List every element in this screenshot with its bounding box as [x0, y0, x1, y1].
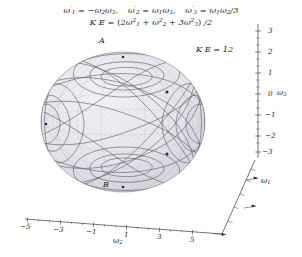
omega3-tick-0: 0 [268, 89, 273, 98]
omega2-tick-5: 5 [190, 235, 195, 244]
omega1-axis-label: ω1 [261, 176, 270, 185]
omega3-tick--1: −1 [265, 110, 276, 119]
equilibrium-label-a: A [99, 36, 105, 45]
omega3-tick--2: −2 [265, 131, 276, 140]
omega2-axis-label: ω2 [113, 236, 122, 245]
axis-omega3 [255, 24, 261, 158]
omega2-tick--5: −5 [20, 222, 31, 231]
omega3-tick--3: −3 [262, 147, 273, 156]
omega2-tick-1: 1 [124, 230, 129, 239]
omega2-tick--1: −1 [86, 227, 97, 236]
axis-omega1 [222, 160, 258, 234]
ellipsoid-plot [0, 0, 302, 257]
omega3-tick-1: 1 [268, 68, 273, 77]
equilibrium-label-b: B [103, 180, 109, 189]
omega2-tick--3: −3 [53, 225, 64, 234]
omega3-tick-2: 2 [268, 47, 273, 56]
omega2-tick-3: 3 [157, 232, 162, 241]
omega3-tick-3: 3 [268, 26, 273, 35]
omega3-axis-label: ω3 [277, 88, 286, 97]
figure-root: ω′1 = −ω2ω3, ω′2 = ω1ω3, ω′3 = ω1ω2/3 K … [0, 0, 302, 257]
